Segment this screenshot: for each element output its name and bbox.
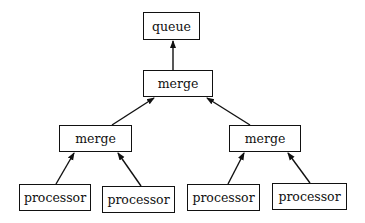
edge-proc1-to-merge-left	[56, 153, 74, 184]
edge-merge-right-to-merge-top	[207, 98, 250, 125]
node-queue: queue	[143, 12, 200, 40]
node-processor-1: processor	[19, 184, 91, 211]
edge-merge-left-to-merge-top	[112, 98, 154, 125]
node-processor-4: processor	[272, 183, 347, 210]
edge-proc4-to-merge-right	[288, 153, 310, 183]
edge-proc3-to-merge-right	[228, 153, 244, 184]
node-merge-top: merge	[143, 70, 213, 97]
edge-proc2-to-merge-left	[118, 153, 141, 186]
node-processor-2: processor	[102, 186, 175, 213]
node-processor-3: processor	[187, 184, 260, 211]
node-merge-right: merge	[229, 125, 301, 152]
node-merge-left: merge	[59, 125, 132, 152]
